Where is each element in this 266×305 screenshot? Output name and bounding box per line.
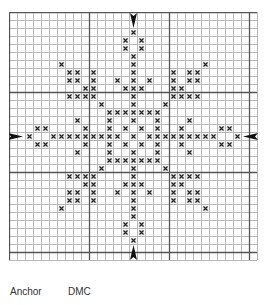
arrow-right xyxy=(243,133,258,140)
cross-stitch-chart xyxy=(9,12,257,260)
arrow-left xyxy=(9,133,23,140)
pattern-grid xyxy=(9,12,259,262)
legend-dmc-label: DMC xyxy=(68,286,91,297)
legend-anchor-label: Anchor xyxy=(10,286,42,297)
